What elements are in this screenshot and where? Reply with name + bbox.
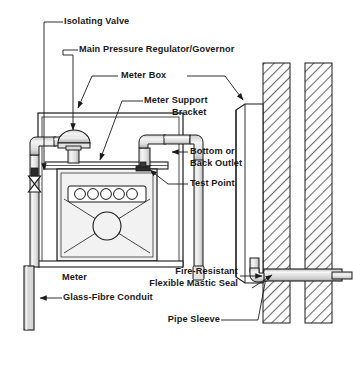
leader-meter-box-left [78, 76, 118, 108]
pipe-sleeve [264, 269, 352, 281]
label-isolating-valve: Isolating Valve [64, 16, 129, 28]
label-meter: Meter [62, 272, 87, 284]
label-test-point: Test Point [190, 178, 235, 190]
label-meter-box: Meter Box [121, 70, 166, 82]
label-bottom-or-back-outlet-line2: Back Outlet [190, 158, 242, 170]
glass-fibre-conduit [24, 266, 34, 330]
label-main-pressure-regulator: Main Pressure Regulator/Governor [79, 44, 234, 56]
meter-box-3d-right [236, 104, 263, 283]
label-bottom-or-back-outlet-line1: Bottom or [190, 146, 235, 158]
label-fire-resistant-seal-line1: Fire-Resistant [86, 266, 238, 278]
label-pipe-sleeve: Pipe Sleeve [96, 314, 220, 326]
diagram-canvas: Isolating Valve Main Pressure Regulator/… [0, 0, 353, 366]
label-glass-fibre-conduit: Glass-Fibre Conduit [63, 292, 153, 304]
cavity-wall-outer-leaf [263, 63, 290, 323]
meter-body [57, 169, 157, 261]
label-meter-support-bracket-line2: Bracket [172, 107, 206, 119]
label-fire-resistant-seal-line2: Flexible Mastic Seal [86, 278, 238, 290]
meter-dial-index [68, 186, 146, 202]
cavity-wall-inner-leaf [305, 63, 332, 323]
label-meter-support-bracket-line1: Meter Support [144, 95, 208, 107]
